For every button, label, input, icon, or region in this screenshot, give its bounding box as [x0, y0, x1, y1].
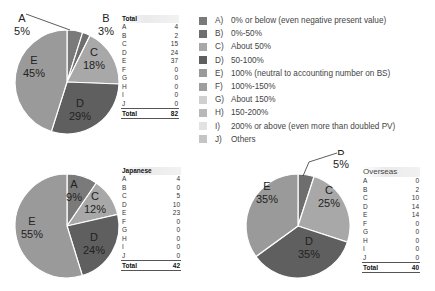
legend-swatch-icon: [199, 96, 207, 104]
row-category: E: [122, 209, 126, 218]
legend-swatch-icon: [199, 122, 207, 130]
row-value: 4: [174, 23, 178, 32]
slice-label-category: C: [91, 190, 99, 202]
row-value: 2: [415, 186, 419, 195]
pie-chart-overseas: B5%C25%D35%E35%: [225, 150, 355, 291]
slice-label-percent: 24%: [83, 244, 105, 256]
row-category: J: [122, 252, 125, 261]
table-row: B2: [362, 186, 420, 195]
row-category: J: [363, 254, 366, 263]
table-row: E37: [121, 57, 179, 66]
total-label: Total: [122, 109, 137, 118]
row-category: F: [122, 218, 126, 227]
row-category: F: [122, 66, 126, 75]
pie-chart-total: A5%B3%C18%D29%E45%: [0, 0, 120, 145]
slice-label-category: C: [90, 46, 98, 58]
legend-item: E)100% (neutral to accounting number on …: [199, 67, 395, 80]
table-body: A0B2C10D14E14F0G0H0I0J0: [362, 177, 420, 263]
slice-label-percent: 5%: [333, 158, 349, 170]
table-total-row: Total 82: [121, 109, 179, 119]
total-label: Total: [122, 261, 137, 270]
row-value: 0: [415, 177, 419, 186]
row-value: 15: [171, 40, 178, 49]
table-overseas: Overseas A0B2C10D14E14F0G0H0I0J0 Total 4…: [362, 167, 420, 273]
legend-item: I)200% or above (even more than doubled …: [199, 120, 395, 133]
legend-swatch-icon: [199, 109, 207, 117]
row-category: A: [122, 175, 126, 184]
row-category: D: [122, 49, 127, 58]
row-value: 0: [174, 66, 178, 75]
legend-label: 0% or below (even negative present value…: [231, 16, 386, 25]
legend-label: About 50%: [231, 42, 271, 51]
table-row: B0: [121, 184, 181, 193]
leader-line: [26, 14, 70, 30]
row-value: 0: [174, 74, 178, 83]
table-row: J0: [121, 252, 181, 262]
row-value: 0: [176, 235, 180, 244]
row-category: I: [122, 243, 124, 252]
row-category: D: [122, 201, 127, 210]
slice-label-category: D: [76, 97, 84, 109]
slice-label-category: C: [325, 184, 333, 196]
row-value: 37: [171, 57, 178, 66]
row-category: B: [122, 32, 126, 41]
row-value: 0: [174, 83, 178, 92]
legend-item: F)100%-150%: [199, 80, 395, 93]
table-row: C5: [121, 192, 181, 201]
slice-label-percent: 25%: [318, 197, 340, 209]
legend-label: About 150%: [231, 95, 276, 104]
table-row: E23: [121, 209, 181, 218]
row-value: 0: [176, 252, 180, 261]
table-header: Japanese: [121, 167, 181, 175]
table-row: I0: [121, 91, 179, 100]
slice-label-percent: 18%: [83, 59, 105, 71]
table-row: D14: [362, 203, 420, 212]
legend-item: J)Others: [199, 133, 395, 146]
table-row: H0: [362, 237, 420, 246]
legend-label: Others: [231, 135, 256, 144]
row-category: G: [122, 74, 127, 83]
row-value: 10: [412, 194, 419, 203]
row-category: E: [363, 211, 367, 220]
row-category: I: [363, 245, 365, 254]
row-category: I: [122, 91, 124, 100]
slice-label-percent: 29%: [69, 110, 91, 122]
row-category: H: [122, 83, 127, 92]
row-category: F: [363, 220, 367, 229]
table-total-row: Total 40: [362, 263, 420, 273]
table-row: G0: [121, 74, 179, 83]
pie-overseas-svg: B5%C25%D35%E35%: [225, 150, 355, 291]
legend-key: E): [215, 69, 231, 78]
table-row: F0: [121, 66, 179, 75]
table-total-row: Total 42: [121, 261, 181, 271]
legend-label: 100% (neutral to accounting number on BS…: [231, 69, 390, 78]
total-value: 42: [173, 261, 180, 270]
row-category: H: [363, 237, 368, 246]
legend-label: 200% or above (even more than doubled PV…: [231, 122, 395, 131]
total-label: Total: [363, 263, 378, 272]
table-row: C15: [121, 40, 179, 49]
legend-item: D)50-100%: [199, 54, 395, 67]
slice-label-category: A: [18, 12, 26, 24]
legend-item: C)About 50%: [199, 40, 395, 53]
row-category: G: [363, 228, 368, 237]
legend-key: A): [215, 16, 231, 25]
row-value: 10: [173, 201, 180, 210]
table-row: F0: [121, 218, 181, 227]
table-row: I0: [121, 243, 181, 252]
table-row: A4: [121, 175, 181, 184]
legend-key: B): [215, 29, 231, 38]
legend-label: 100%-150%: [231, 82, 276, 91]
legend-swatch-icon: [199, 83, 207, 91]
legend-label: 0%-50%: [231, 29, 262, 38]
row-value: 0: [415, 237, 419, 246]
row-value: 0: [176, 184, 180, 193]
row-category: C: [363, 194, 368, 203]
row-value: 0: [176, 243, 180, 252]
row-category: H: [122, 235, 127, 244]
row-value: 5: [176, 192, 180, 201]
row-value: 2: [174, 32, 178, 41]
row-category: G: [122, 226, 127, 235]
legend-label: 50-100%: [231, 56, 264, 65]
row-value: 0: [415, 220, 419, 229]
